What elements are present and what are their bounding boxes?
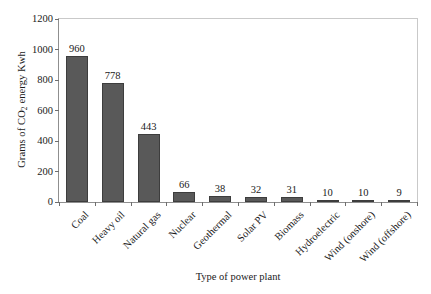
x-axis-tick-mark [381, 202, 382, 206]
y-axis-tick-mark [55, 49, 59, 50]
x-axis-category-label: Geothermal [191, 209, 235, 253]
bar[interactable]: 32 [245, 197, 267, 202]
y-axis-tick-label: 400 [37, 134, 53, 147]
bar-value-label: 778 [105, 70, 121, 82]
x-axis-category-label-text: Natural gas [120, 209, 163, 252]
y-axis-tick-label: 1200 [32, 12, 53, 25]
x-axis-tick-mark [274, 202, 275, 206]
x-axis-category-label-text: Solar PV [235, 209, 271, 245]
y-axis-tick-label: 1000 [32, 43, 53, 56]
y-axis-tick-mark [55, 19, 59, 20]
bar[interactable]: 443 [138, 134, 160, 202]
x-axis-category-label: Nuclear [167, 209, 199, 241]
y-axis-tick-label: 0 [48, 195, 53, 208]
bar-value-label: 32 [251, 184, 262, 196]
bar[interactable]: 10 [352, 200, 374, 202]
y-axis-tick-label: 800 [37, 73, 53, 86]
bar-value-label: 38 [215, 183, 226, 195]
x-axis-tick-mark [59, 202, 60, 206]
bar[interactable]: 960 [66, 56, 88, 202]
x-axis-category-label: Solar PV [235, 209, 271, 245]
bar-value-label: 443 [141, 121, 157, 133]
x-axis-category-label-text: Biomass [272, 209, 306, 243]
bar-value-label: 66 [179, 179, 190, 191]
x-axis-title: Type of power plant [58, 271, 418, 282]
x-axis-tick-mark [202, 202, 203, 206]
x-axis-tick-mark [310, 202, 311, 206]
x-axis-tick-mark [345, 202, 346, 206]
bar-value-label: 960 [69, 43, 85, 55]
x-axis-tick-mark [417, 202, 418, 206]
x-axis-category-label-text: Geothermal [191, 209, 235, 253]
bar[interactable]: 778 [102, 83, 124, 202]
plot-area: 020040060080010001200960Coal778Heavy oil… [58, 18, 418, 203]
x-axis-category-label: Biomass [272, 209, 306, 243]
y-axis-tick-mark [55, 80, 59, 81]
x-axis-category-label-text: Coal [69, 209, 92, 232]
bar[interactable]: 66 [173, 192, 195, 202]
y-axis-tick-label: 600 [37, 104, 53, 117]
x-axis-tick-mark [131, 202, 132, 206]
x-axis-category-label-text: Nuclear [167, 209, 199, 241]
y-axis-tick-mark [55, 110, 59, 111]
bar-value-label: 10 [358, 187, 369, 199]
bar[interactable]: 10 [317, 200, 339, 202]
bar[interactable]: 9 [388, 200, 410, 202]
x-axis-tick-mark [95, 202, 96, 206]
bar-chart: Grams of CO2 energy Kwh 0200400600800100… [0, 0, 431, 294]
bar-value-label: 9 [396, 187, 401, 199]
y-axis-tick-mark [55, 171, 59, 172]
bar[interactable]: 38 [209, 196, 231, 202]
x-axis-category-label: Natural gas [120, 209, 163, 252]
y-axis-title-suffix: energy Kwh [16, 51, 27, 106]
y-axis-tick-mark [55, 141, 59, 142]
y-axis-title-prefix: Grams of CO [16, 110, 27, 168]
x-axis-tick-mark [238, 202, 239, 206]
x-axis-category-label: Coal [69, 209, 92, 232]
x-axis-tick-mark [166, 202, 167, 206]
y-axis-tick-label: 200 [37, 165, 53, 178]
y-axis-title: Grams of CO2 energy Kwh [16, 15, 27, 205]
bar[interactable]: 31 [281, 197, 303, 202]
y-axis-title-subscript: 2 [20, 106, 29, 110]
bar-value-label: 10 [322, 187, 333, 199]
bar-value-label: 31 [286, 184, 297, 196]
